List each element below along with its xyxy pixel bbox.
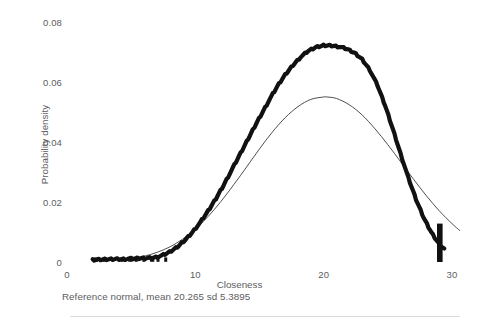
rug-mark — [121, 257, 124, 261]
density-plot-figure: 00.020.040.060.08 0102030 Probability de… — [0, 0, 479, 324]
right-tail-spike — [437, 224, 443, 262]
rug-mark — [157, 257, 160, 261]
plot-area — [0, 0, 479, 324]
rug-mark — [94, 257, 98, 261]
rug-mark — [135, 257, 138, 261]
rug-mark — [164, 257, 167, 261]
bottom-divider — [70, 316, 460, 317]
empirical-density-curve — [93, 45, 445, 261]
rug-mark — [103, 257, 106, 261]
y-tick-label: 0.08 — [20, 17, 62, 28]
y-tick-label: 0 — [20, 257, 62, 268]
rug-mark — [128, 257, 132, 261]
y-axis-title: Probability density — [39, 70, 50, 220]
plot-canvas — [0, 0, 479, 324]
spike-bar — [437, 224, 443, 262]
x-axis-title: Closeness — [0, 279, 479, 290]
rug-mark — [150, 257, 154, 261]
rug-mark — [142, 257, 145, 261]
series-empirical-density — [93, 45, 445, 261]
figure-caption: Reference normal, mean 20.265 sd 5.3895 — [62, 291, 250, 302]
